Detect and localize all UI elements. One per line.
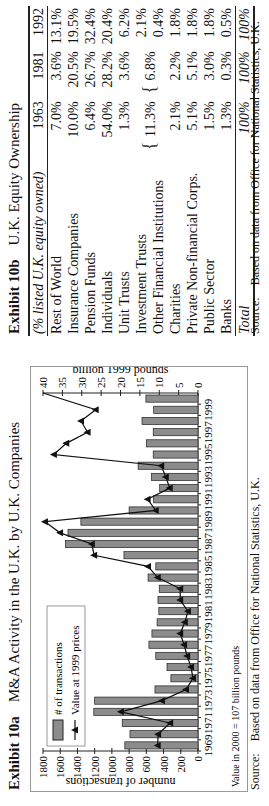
y-tick-label: 200 [175,756,187,773]
bar [159,608,198,615]
row-label: Individuals [99,156,116,336]
table-row: Public Sector1.5%3.0%1.8% [201,6,218,336]
row-label: Public Sector [201,156,218,336]
bar [125,742,198,749]
exhibit-10b-label: Exhibit 10b [6,259,22,334]
source-text: Based on data from Office for National S… [248,21,262,285]
y-tick-label: 800 [123,756,135,773]
y-tick-label: 600 [140,756,152,773]
header-cell: 1981 [29,49,48,99]
y-tick-label: 1600 [54,756,66,779]
table-row: Charities2.1%2.2%1.8% [167,6,184,336]
exhibit-10a-heading: M&A Activity in the U.K. by U.K. Compani… [6,422,22,702]
x-tick-label: 1987 [202,533,214,556]
cell: 54.0% [99,99,116,156]
row-label: Pension Funds [82,156,99,336]
bar [68,529,198,536]
x-tick-label: 1991 [202,488,214,510]
table-row: Banks1.3%0.3%0.5% [218,6,236,336]
cell: 1.5% [201,99,218,156]
y2-tick-label: 30 [76,377,88,389]
row-label: Private Non-financial Corps. [184,156,201,336]
header-cell: 1992 [29,6,48,49]
bar [95,697,198,704]
annotation: Value in 2000 = 107 billion pounds [230,646,241,787]
cell: 1.3% [116,99,133,156]
y2-tick-label: 25 [95,377,107,389]
x-tick-label: 1999 [202,398,214,421]
cell: 2.1% [133,6,150,49]
brace-icon: { [139,81,159,94]
table-row: Pension Funds6.4%26.7%32.4% [82,6,99,336]
y2-axis-label: billion 1999 pounds [72,367,168,376]
bar [152,630,198,637]
bar [156,563,198,570]
x-tick-label: 1975 [202,667,214,690]
exhibit-10b-heading: U.K. Equity Ownership [6,103,22,246]
cell: 1.8% [201,6,218,49]
x-tick-label: 1989 [202,510,214,533]
source-label: Source: [248,753,262,790]
x-tick-label: 1979 [202,622,214,645]
cell: 1.8% [167,6,184,49]
source-label: Source: [248,297,262,334]
brace-icon: { [139,137,159,150]
x-tick-label: 1973 [202,689,214,712]
cell: 26.7% [82,49,99,99]
ownership-table: (% listed U.K. equity owned) 1963 1981 1… [28,6,255,336]
y2-tick-label: 40 [37,377,49,389]
cell: 13.1% [48,6,66,49]
y2-tick-label: 15 [134,377,146,389]
value-marker [84,429,91,436]
cell: 0.4% [150,6,167,49]
bar [157,619,198,626]
bar [156,652,198,659]
cell: 2.2% [167,49,184,99]
exhibit-10a-label: Exhibit 10a [6,716,22,790]
value-marker [41,518,48,525]
legend-label: # of transactions [52,642,64,715]
bar [153,451,198,458]
ownership-table-wrap: (% listed U.K. equity owned) 1963 1981 1… [28,6,255,336]
bar [124,552,198,559]
cell: 3.6% [48,49,66,99]
cell: 5.1% [184,49,201,99]
table-body: Rest of World7.0%3.6%13.1%Insurance Comp… [48,6,236,336]
y-axis-label: number of transactions [65,775,175,789]
cell: 7.0% [48,99,66,156]
x-tick-label: 1983 [202,577,214,600]
header-cell: (% listed U.K. equity owned) [29,156,48,336]
cell: 6.2% [116,6,133,49]
cell: 0.5% [218,6,236,49]
row-label: Unit Trusts [116,156,133,336]
cell: 0.3% [218,49,236,99]
cell: 28.2% [99,49,116,99]
chart: 0200400600800100012001400160018000510152… [31,367,247,791]
bar [81,518,198,525]
y-tick-label: 1200 [89,756,101,779]
row-label: Rest of World [48,156,66,336]
cell: 6.4% [82,99,99,156]
table-row: Unit Trusts1.3%3.6%6.2% [116,6,133,336]
bar [146,440,198,447]
y2-tick-label: 0 [192,382,204,388]
cell: 5.1% [184,99,201,156]
bar [129,507,198,514]
value-marker [144,563,151,570]
table-header: (% listed U.K. equity owned) 1963 1981 1… [29,6,48,336]
bar [152,473,199,480]
cell: 3.0% [201,49,218,99]
bar [154,406,198,413]
bar [138,462,198,469]
rotated-page: Exhibit 10aM&A Activity in the U.K. by U… [0,0,269,806]
x-tick-label: 1969 [202,734,214,757]
row-label: Insurance Companies [65,156,82,336]
row-label: Other Financial Institutions [150,156,167,336]
x-tick-label: 1997 [202,421,214,444]
merged-cell: { 11.3% [133,99,167,156]
y-tick-label: 1000 [106,756,118,779]
bar [149,641,198,648]
value-marker [144,496,151,503]
merged-cell: { 6.8% [133,49,167,99]
chart-frame: 0200400600800100012001400160018000510152… [30,366,248,792]
